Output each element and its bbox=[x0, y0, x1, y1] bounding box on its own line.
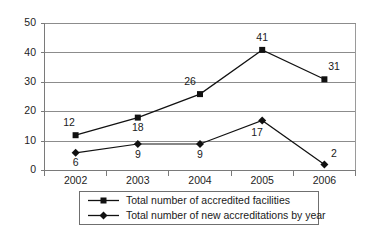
x-tick-label-2002: 2002 bbox=[64, 174, 88, 186]
data-label-facilities-2003: 18 bbox=[132, 121, 144, 133]
line-chart: 0 10 20 30 40 50 2002 2003 2004 2005 200… bbox=[0, 0, 373, 236]
legend-label-series-1: Total number of accredited facilities bbox=[126, 194, 290, 206]
series-1-marker-2003 bbox=[135, 115, 141, 121]
series-2-marker-2006 bbox=[320, 161, 328, 169]
x-tick-label-2006: 2006 bbox=[313, 174, 337, 186]
y-tick-label-50: 50 bbox=[24, 16, 36, 28]
series-1-marker-2004 bbox=[197, 91, 203, 97]
series-2-marker-2005 bbox=[258, 117, 266, 125]
x-tick-label-2003: 2003 bbox=[126, 174, 150, 186]
y-axis-labels: 0 10 20 30 40 50 bbox=[24, 16, 36, 175]
legend-square-icon bbox=[101, 198, 107, 204]
series-1-marker-2006 bbox=[321, 76, 327, 82]
data-label-new-2005: 17 bbox=[251, 126, 263, 138]
series-1-marker-2002 bbox=[73, 132, 79, 138]
x-tick-label-2004: 2004 bbox=[188, 174, 212, 186]
gridlines bbox=[45, 24, 356, 142]
y-tick-label-20: 20 bbox=[24, 104, 36, 116]
legend-label-series-2: Total number of new accreditations by ye… bbox=[126, 209, 326, 221]
data-label-facilities-2002: 12 bbox=[63, 116, 75, 128]
y-tick-label-30: 30 bbox=[24, 75, 36, 87]
data-label-new-2004: 9 bbox=[197, 148, 203, 160]
series-accredited-facilities bbox=[73, 47, 328, 138]
data-label-facilities-2006: 31 bbox=[328, 60, 340, 72]
x-axis-labels: 2002 2003 2004 2005 2006 bbox=[64, 174, 336, 186]
y-tick-label-10: 10 bbox=[24, 134, 36, 146]
x-tick-label-2005: 2005 bbox=[251, 174, 275, 186]
data-label-facilities-2005: 41 bbox=[256, 31, 268, 43]
data-label-facilities-2004: 26 bbox=[184, 75, 196, 87]
y-tick-label-0: 0 bbox=[30, 163, 36, 175]
data-label-new-2003: 9 bbox=[135, 148, 141, 160]
chart-legend[interactable]: Total number of accredited facilities To… bbox=[80, 192, 327, 225]
data-label-new-2006: 2 bbox=[331, 147, 337, 159]
series-1-marker-2005 bbox=[259, 47, 265, 53]
chart-canvas: 0 10 20 30 40 50 2002 2003 2004 2005 200… bbox=[0, 0, 373, 236]
y-tick-label-40: 40 bbox=[24, 46, 36, 58]
data-label-new-2002: 6 bbox=[73, 156, 79, 168]
series-new-accreditations bbox=[72, 117, 329, 169]
